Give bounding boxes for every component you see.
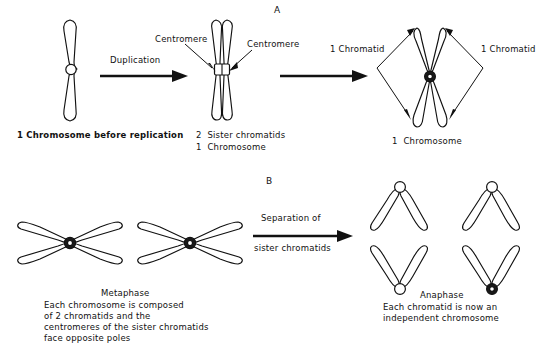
caption-one-chromosome-right: 1 Chromosome bbox=[392, 136, 462, 148]
chromatid-leader-right bbox=[444, 26, 486, 122]
metaphase-chromosome-2 bbox=[134, 214, 246, 272]
anaphase-chromatid-bottom-right bbox=[458, 240, 524, 296]
anaphase-line-2: independent chromosome bbox=[383, 313, 499, 325]
centromere-leader-left bbox=[184, 43, 220, 75]
condensation-arrow bbox=[278, 68, 370, 84]
chromatid-label-left: 1 Chromatid bbox=[330, 44, 385, 54]
chromatid-label-right: 1 Chromatid bbox=[481, 44, 536, 54]
anaphase-chromatid-bottom-left bbox=[366, 240, 432, 296]
anaphase-chromatid-top-right bbox=[458, 180, 524, 234]
panel-b-letter: B bbox=[266, 176, 272, 186]
chromatid-leader-left bbox=[374, 26, 416, 122]
metaphase-line-3: centromeres of the sister chromatids bbox=[44, 322, 209, 334]
caption-sister-chromatids: 2 Sister chromatids bbox=[196, 130, 285, 142]
separation-label-line1: Separation of bbox=[261, 213, 321, 223]
metaphase-title: Metaphase bbox=[101, 288, 150, 298]
anaphase-line-1: Each chromatid is now an bbox=[383, 302, 497, 314]
duplication-arrow bbox=[98, 68, 190, 84]
anaphase-chromatid-top-left bbox=[366, 180, 432, 234]
centromere-leader-right bbox=[228, 49, 254, 73]
centromere-label-right: Centromere bbox=[247, 39, 299, 49]
anaphase-title: Anaphase bbox=[420, 290, 464, 300]
metaphase-line-1: Each chromosome is composed bbox=[44, 300, 184, 312]
chromosome-replication-figure: A Duplication Centromere Centromere bbox=[0, 0, 544, 355]
metaphase-line-2: of 2 chromatids and the bbox=[44, 311, 151, 323]
metaphase-line-4: face opposite poles bbox=[44, 333, 130, 345]
panel-a-letter: A bbox=[274, 5, 280, 15]
metaphase-chromosome-1 bbox=[14, 214, 126, 272]
separation-arrow bbox=[251, 228, 355, 244]
caption-one-chromosome: 1 Chromosome bbox=[196, 142, 266, 154]
duplication-label: Duplication bbox=[110, 55, 160, 65]
chromosome-before-replication-glyph bbox=[44, 14, 100, 126]
separation-label-line2: sister chromatids bbox=[254, 243, 331, 253]
caption-before-replication: 1 Chromosome before replication bbox=[17, 130, 183, 142]
